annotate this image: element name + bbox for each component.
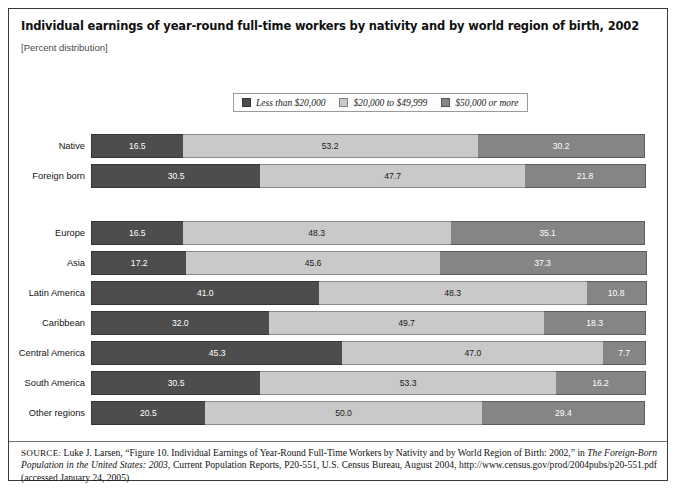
bar-track: 41.048.310.8: [91, 281, 646, 305]
bar-segment-value: 48.3: [444, 288, 461, 298]
bar-row: Europe16.548.335.1: [9, 221, 667, 245]
source-divider: [9, 441, 667, 442]
bar-segment-value: 16.5: [129, 228, 146, 238]
bar-row: Latin America41.048.310.8: [9, 281, 667, 305]
chart-legend: Less than $20,000$20,000 to $49,999$50,0…: [233, 93, 528, 112]
source-text-part-1: Luke J. Larsen, “Figure 10. Individual E…: [61, 447, 587, 458]
page-title: Individual earnings of year-round full-t…: [21, 19, 651, 33]
bar-segment: 30.2: [478, 134, 646, 158]
bar-row: Foreign born30.547.721.8: [9, 164, 667, 188]
bar-row-label: Europe: [9, 221, 85, 245]
bar-segment-value: 41.0: [197, 288, 214, 298]
legend-swatch-less-than-20000: [242, 98, 251, 107]
bar-track: 32.049.718.3: [91, 311, 646, 335]
bar-segment-value: 37.3: [534, 258, 551, 268]
bar-segment: 16.5: [91, 221, 183, 245]
bar-segment-value: 18.3: [586, 318, 603, 328]
bar-segment-value: 7.7: [618, 348, 630, 358]
bar-segment-value: 21.8: [577, 171, 594, 181]
bar-row: Other regions20.550.029.4: [9, 401, 667, 425]
bar-segment-value: 10.8: [608, 288, 625, 298]
bar-segment-value: 16.2: [592, 378, 609, 388]
bar-segment-value: 45.6: [305, 258, 322, 268]
bar-segment-value: 29.4: [555, 408, 572, 418]
bar-segment: 16.2: [556, 371, 646, 395]
legend-swatch-50000-or-more: [441, 98, 450, 107]
bar-segment-value: 32.0: [172, 318, 189, 328]
bar-segment: 48.3: [319, 281, 587, 305]
legend-label: Less than $20,000: [256, 98, 325, 108]
bar-segment: 30.5: [91, 371, 260, 395]
bar-track: 30.553.316.2: [91, 371, 646, 395]
bar-segment: 17.2: [91, 251, 186, 275]
legend-item: $50,000 or more: [441, 98, 518, 108]
bar-row-label: Latin America: [9, 281, 85, 305]
bar-segment-value: 17.2: [131, 258, 148, 268]
bar-segment-value: 30.2: [553, 141, 570, 151]
source-note: SOURCE: Luke J. Larsen, “Figure 10. Indi…: [21, 447, 657, 484]
bar-row: Asia17.245.637.3: [9, 251, 667, 275]
bar-row: Caribbean32.049.718.3: [9, 311, 667, 335]
bar-segment-value: 47.0: [464, 348, 481, 358]
figure-frame: Individual earnings of year-round full-t…: [8, 8, 668, 481]
bar-segment: 10.8: [587, 281, 647, 305]
bar-row-label: Foreign born: [9, 164, 85, 188]
bar-segment: 53.2: [183, 134, 478, 158]
bar-segment: 21.8: [525, 164, 646, 188]
bar-segment: 50.0: [205, 401, 483, 425]
legend-item: $20,000 to $49,999: [339, 98, 427, 108]
bar-row-label: Native: [9, 134, 85, 158]
legend-item: Less than $20,000: [242, 98, 325, 108]
bar-segment: 45.6: [186, 251, 439, 275]
bar-segment: 18.3: [544, 311, 646, 335]
bar-row-label: Central America: [9, 341, 85, 365]
bar-row: South America30.553.316.2: [9, 371, 667, 395]
chart-plot-area: Native16.553.230.2Foreign born30.547.721…: [9, 125, 667, 425]
bar-row-label: Caribbean: [9, 311, 85, 335]
bar-row: Central America45.347.07.7: [9, 341, 667, 365]
bar-segment-value: 30.5: [168, 171, 185, 181]
bar-row-label: South America: [9, 371, 85, 395]
bar-segment-value: 49.7: [398, 318, 415, 328]
legend-swatch-20000-to-49999: [339, 98, 348, 107]
bar-track: 30.547.721.8: [91, 164, 646, 188]
legend-label: $50,000 or more: [455, 98, 518, 108]
bar-segment: 53.3: [260, 371, 556, 395]
bar-segment-value: 35.1: [539, 228, 556, 238]
legend-label: $20,000 to $49,999: [353, 98, 427, 108]
bar-track: 16.553.230.2: [91, 134, 646, 158]
bar-segment: 29.4: [482, 401, 645, 425]
bar-track: 45.347.07.7: [91, 341, 646, 365]
bar-segment: 45.3: [91, 341, 342, 365]
figure-subtitle: [Percent distribution]: [21, 42, 108, 53]
bar-row-label: Other regions: [9, 401, 85, 425]
bar-segment: 7.7: [603, 341, 646, 365]
bar-segment: 49.7: [269, 311, 545, 335]
bar-segment: 16.5: [91, 134, 183, 158]
bar-segment: 37.3: [440, 251, 647, 275]
bar-segment-value: 48.3: [308, 228, 325, 238]
bar-segment: 20.5: [91, 401, 205, 425]
bar-segment-value: 16.5: [129, 141, 146, 151]
bar-segment: 32.0: [91, 311, 269, 335]
bar-segment-value: 47.7: [384, 171, 401, 181]
source-label: SOURCE:: [21, 448, 61, 458]
bar-track: 17.245.637.3: [91, 251, 646, 275]
bar-segment: 48.3: [183, 221, 451, 245]
bar-segment-value: 53.3: [400, 378, 417, 388]
bar-segment: 35.1: [451, 221, 646, 245]
bar-segment: 47.7: [260, 164, 525, 188]
bar-row-label: Asia: [9, 251, 85, 275]
bar-row: Native16.553.230.2: [9, 134, 667, 158]
bar-segment-value: 53.2: [322, 141, 339, 151]
bar-segment: 30.5: [91, 164, 260, 188]
bar-segment-value: 20.5: [140, 408, 157, 418]
bar-segment-value: 30.5: [168, 378, 185, 388]
bar-track: 20.550.029.4: [91, 401, 646, 425]
bar-segment: 41.0: [91, 281, 319, 305]
bar-segment-value: 45.3: [209, 348, 226, 358]
bar-track: 16.548.335.1: [91, 221, 646, 245]
bar-segment-value: 50.0: [335, 408, 352, 418]
bar-segment: 47.0: [342, 341, 603, 365]
